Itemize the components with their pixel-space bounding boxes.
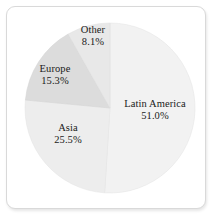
pie-label-europe: Europe 15.3% xyxy=(20,63,90,87)
pie-label-europe-value: 15.3% xyxy=(20,75,90,87)
pie-slice-asia[interactable] xyxy=(25,100,110,193)
pie-label-other-value: 8.1% xyxy=(62,36,124,48)
pie-chart-screenshot: Latin America 51.0% Asia 25.5% Europe 15… xyxy=(0,0,214,217)
pie-label-latin-america: Latin America 51.0% xyxy=(109,98,201,122)
pie-label-other: Other 8.1% xyxy=(62,24,124,48)
pie-label-asia-name: Asia xyxy=(36,122,100,134)
pie-label-latin-america-name: Latin America xyxy=(109,98,201,110)
pie-label-europe-name: Europe xyxy=(20,63,90,75)
pie-label-latin-america-value: 51.0% xyxy=(109,110,201,122)
pie-label-asia: Asia 25.5% xyxy=(36,122,100,146)
pie-label-other-name: Other xyxy=(62,24,124,36)
pie-label-asia-value: 25.5% xyxy=(36,134,100,146)
chart-plot-area: Latin America 51.0% Asia 25.5% Europe 15… xyxy=(0,0,214,217)
